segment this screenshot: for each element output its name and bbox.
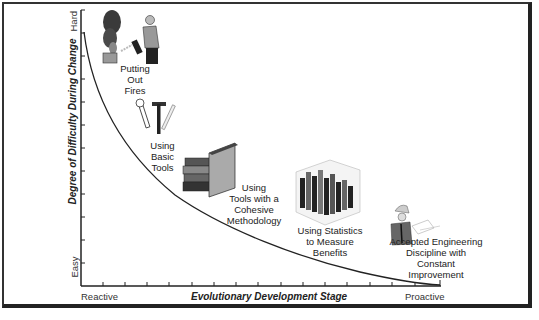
stage-label-cohesive-methodology: Using Tools with a Cohesive Methodology	[218, 182, 290, 226]
tools-icon	[136, 99, 175, 134]
x-axis-right-label: Proactive	[405, 291, 445, 302]
y-axis-bottom-label: Easy	[69, 258, 80, 278]
x-axis-ticks	[103, 280, 440, 286]
firefighter-icon	[103, 10, 159, 64]
y-axis-top-label: Hard	[68, 12, 79, 32]
x-axis-title: Evolutionary Development Stage	[191, 291, 347, 302]
x-axis-left-label: Reactive	[81, 291, 118, 302]
stage-label-engineering-discipline: Accepted Engineering Discipline with Con…	[376, 236, 496, 280]
y-axis-title: Degree of Difficulty During Change	[67, 32, 78, 212]
stage-label-basic-tools: Using Basic Tools	[140, 140, 185, 173]
3d-bar-chart-icon	[296, 160, 360, 225]
stage-label-putting-out-fires: Putting Out Fires	[110, 63, 160, 96]
stage-label-statistics: Using Statistics to Measure Benefits	[290, 225, 370, 258]
